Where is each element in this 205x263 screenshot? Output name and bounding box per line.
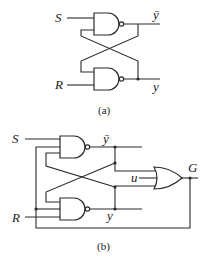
label-G-b: G xyxy=(188,160,198,175)
label-S-b: S xyxy=(12,131,19,146)
label-ybar-b: ȳ xyxy=(101,131,109,146)
caption-b: (b) xyxy=(97,240,110,253)
label-y-a: y xyxy=(151,79,159,94)
nand-gate-bottom-b xyxy=(60,198,85,220)
diagram-b: S R ȳ y u G (b) xyxy=(11,131,198,253)
or-gate-b xyxy=(154,167,182,189)
logic-circuit-figure: S R ȳ y (a) xyxy=(0,0,205,263)
caption-a: (a) xyxy=(98,104,111,117)
nand-gate-top-a xyxy=(94,13,119,35)
label-S-a: S xyxy=(55,10,62,25)
nand-gate-top-b xyxy=(60,136,85,158)
nand-gate-bottom-a xyxy=(94,68,119,90)
label-u-b: u xyxy=(131,170,138,185)
label-y-b: y xyxy=(105,208,113,223)
label-ybar-a: ȳ xyxy=(151,7,159,22)
label-R-b: R xyxy=(11,210,20,225)
label-R-a: R xyxy=(54,77,63,92)
diagram-a: S R ȳ y (a) xyxy=(54,7,160,117)
